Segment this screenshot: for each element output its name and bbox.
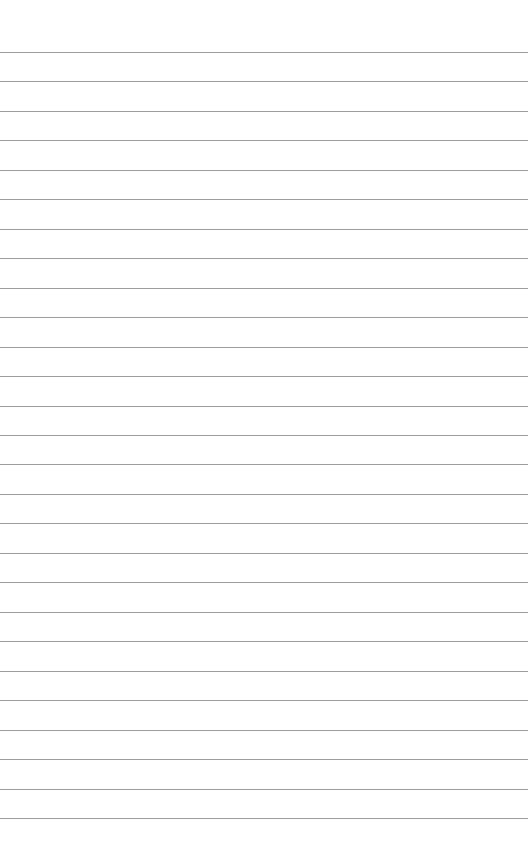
- ruled-line: [0, 52, 528, 53]
- ruled-line: [0, 464, 528, 465]
- ruled-line: [0, 258, 528, 259]
- ruled-line: [0, 582, 528, 583]
- ruled-line: [0, 671, 528, 672]
- ruled-line: [0, 199, 528, 200]
- ruled-line: [0, 140, 528, 141]
- ruled-line: [0, 494, 528, 495]
- ruled-line: [0, 789, 528, 790]
- ruled-line: [0, 641, 528, 642]
- ruled-line: [0, 170, 528, 171]
- ruled-line: [0, 759, 528, 760]
- ruled-line: [0, 818, 528, 819]
- ruled-line: [0, 111, 528, 112]
- ruled-line: [0, 553, 528, 554]
- ruled-line: [0, 523, 528, 524]
- ruled-line: [0, 229, 528, 230]
- ruled-line: [0, 700, 528, 701]
- ruled-line: [0, 612, 528, 613]
- ruled-line: [0, 347, 528, 348]
- ruled-line: [0, 288, 528, 289]
- ruled-line: [0, 376, 528, 377]
- ruled-line: [0, 435, 528, 436]
- ruled-line: [0, 317, 528, 318]
- lined-paper-page: [0, 0, 528, 867]
- ruled-line: [0, 730, 528, 731]
- ruled-line: [0, 406, 528, 407]
- ruled-line: [0, 81, 528, 82]
